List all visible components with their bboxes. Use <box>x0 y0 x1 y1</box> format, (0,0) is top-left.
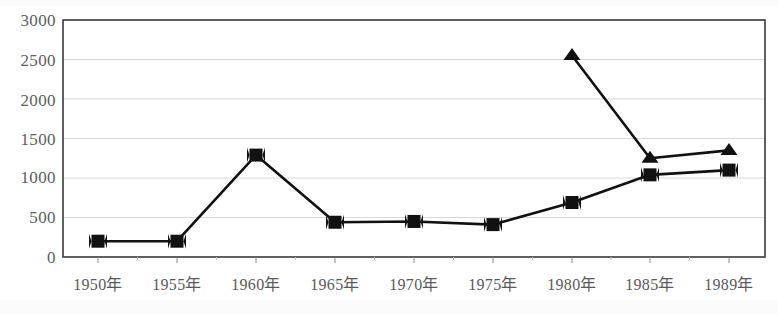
data-point-square <box>171 235 184 248</box>
data-point-square <box>487 218 500 231</box>
marker-flare <box>184 234 187 249</box>
x-tick-label-1985: 1985年 <box>625 271 675 295</box>
series-line-square <box>98 155 729 241</box>
data-point-square <box>329 216 342 229</box>
marker-flare <box>405 214 408 229</box>
marker-flare <box>736 163 739 178</box>
gridlines <box>63 20 765 218</box>
marker-flare <box>720 163 723 178</box>
data-point-square <box>92 235 105 248</box>
x-tick-label-1989: 1989年 <box>704 271 754 295</box>
x-tick-label-1975: 1975年 <box>468 271 518 295</box>
x-axis-ticks <box>98 257 729 263</box>
data-point-triangle <box>721 143 738 155</box>
marker-flare <box>105 234 108 249</box>
marker-flare <box>247 148 250 163</box>
data-point-square <box>250 149 263 162</box>
data-point-square <box>408 215 421 228</box>
x-axis-labels: 1950年 1955年 1960年 1965年 1970年 1975年 1980… <box>0 271 778 297</box>
data-point-triangle <box>564 48 581 60</box>
marker-flare <box>579 195 582 210</box>
marker-flare <box>342 215 345 230</box>
marker-flare <box>168 234 171 249</box>
x-tick-label-1965: 1965年 <box>310 271 360 295</box>
marker-flare <box>500 217 503 232</box>
data-point-square <box>723 164 736 177</box>
data-point-square <box>566 196 579 209</box>
marker-flare <box>89 234 92 249</box>
x-tick-label-1950: 1950年 <box>73 271 123 295</box>
x-tick-label-1960: 1960年 <box>231 271 281 295</box>
marker-flare <box>563 195 566 210</box>
x-tick-label-1970: 1970年 <box>389 271 439 295</box>
marker-flare <box>657 167 660 182</box>
marker-flare <box>641 167 644 182</box>
data-point-square <box>644 168 657 181</box>
marker-flare <box>484 217 487 232</box>
x-tick-label-1955: 1955年 <box>152 271 202 295</box>
plot-area <box>0 0 778 314</box>
series-layer <box>89 48 738 249</box>
marker-flare <box>421 214 424 229</box>
x-tick-label-1980: 1980年 <box>547 271 597 295</box>
chart-canvas: 3000 2500 2000 1500 1000 500 0 1950年 195… <box>0 0 778 314</box>
series-line-triangle <box>572 56 729 159</box>
